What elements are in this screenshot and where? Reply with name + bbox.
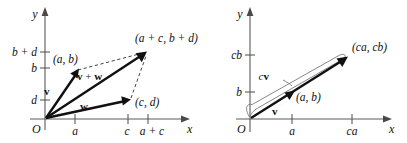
right-x-axis-label: x bbox=[388, 122, 395, 136]
left-vector-label-sum-w: w bbox=[94, 70, 102, 82]
diagram-svg: y x O b + d b d a c a + c (a, b) (c, d) … bbox=[0, 0, 407, 143]
right-origin-label: O bbox=[237, 122, 246, 136]
right-vector-label-v: v bbox=[272, 105, 278, 117]
left-tick-label-c: c bbox=[124, 125, 129, 137]
left-vector-label-v: v bbox=[44, 85, 50, 97]
left-tick-label-d: d bbox=[31, 94, 37, 106]
left-tick-label-apc: a + c bbox=[140, 125, 164, 137]
left-origin-label: O bbox=[32, 122, 41, 136]
right-tick-label-cb: cb bbox=[231, 49, 242, 61]
left-tick-label-b: b bbox=[31, 62, 37, 74]
left-vector-w-arrowhead bbox=[121, 96, 131, 105]
right-point-label-cacb: (ca, cb) bbox=[352, 41, 387, 54]
figure-container: y x O b + d b d a c a + c (a, b) (c, d) … bbox=[0, 0, 407, 143]
left-vector-label-sum-plus: + bbox=[83, 70, 95, 82]
left-point-label-sum: (a + c, b + d) bbox=[135, 32, 198, 45]
right-tick-label-ca: ca bbox=[347, 125, 358, 137]
left-x-axis-label: x bbox=[186, 122, 193, 136]
left-y-axis-arrowhead bbox=[42, 7, 49, 16]
right-tick-label-a: a bbox=[289, 125, 295, 137]
left-tick-label-bpd: b + d bbox=[12, 46, 37, 58]
left-point-label-cd: (c, d) bbox=[135, 96, 159, 109]
right-point-label-ab: (a, b) bbox=[296, 91, 321, 104]
left-vector-label-w: w bbox=[80, 100, 88, 112]
right-vector-label-cv-v: v bbox=[264, 70, 270, 82]
right-y-axis-label: y bbox=[236, 7, 243, 21]
left-dashed-cd-to-sum bbox=[131, 56, 146, 98]
right-tick-label-b: b bbox=[236, 86, 242, 98]
left-y-axis-label: y bbox=[31, 7, 38, 21]
right-cv-outline bbox=[247, 54, 346, 117]
right-vector-label-cv: cv bbox=[259, 70, 270, 82]
left-tick-label-a: a bbox=[72, 125, 78, 137]
right-y-axis-arrowhead bbox=[247, 7, 254, 16]
right-panel-group: y x O cb b a ca (a, b) (ca, cb) v cv bbox=[231, 7, 395, 137]
left-panel-group: y x O b + d b d a c a + c (a, b) (c, d) … bbox=[12, 7, 198, 137]
left-point-label-ab: (a, b) bbox=[53, 53, 78, 66]
left-vector-label-sum: v + w bbox=[77, 70, 102, 82]
